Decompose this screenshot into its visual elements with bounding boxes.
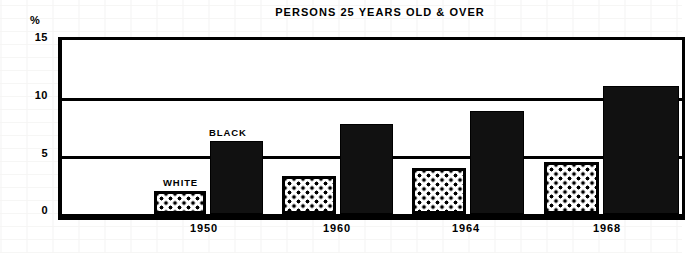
white-series-annotation: WHITE bbox=[163, 177, 198, 188]
y-axis-unit-label: % bbox=[30, 14, 40, 26]
black-bar-1964[interactable] bbox=[470, 111, 524, 214]
y-axis-tick-15: 15 bbox=[0, 31, 48, 43]
white-bar-1950[interactable] bbox=[154, 191, 206, 214]
white-bar-1964[interactable] bbox=[412, 168, 466, 214]
black-series-annotation: BLACK bbox=[209, 127, 247, 138]
black-bar-1950[interactable] bbox=[210, 141, 263, 214]
plot-area: WHITE BLACK bbox=[58, 37, 685, 220]
bar-group-1960 bbox=[282, 40, 394, 214]
chart-title: PERSONS 25 YEARS OLD & OVER bbox=[0, 6, 682, 18]
bar-group-1968 bbox=[544, 40, 679, 214]
bar-series-container bbox=[62, 40, 682, 214]
x-axis-label-1950: 1950 bbox=[190, 222, 218, 234]
x-axis-label-1964: 1964 bbox=[452, 222, 480, 234]
y-axis-tick-10: 10 bbox=[0, 89, 48, 101]
black-bar-1960[interactable] bbox=[340, 124, 393, 214]
x-axis-label-1960: 1960 bbox=[323, 222, 351, 234]
white-bar-1968[interactable] bbox=[544, 162, 599, 214]
y-axis-tick-0: 0 bbox=[0, 204, 48, 216]
white-bar-1960[interactable] bbox=[282, 176, 336, 214]
black-bar-1968[interactable] bbox=[603, 86, 679, 214]
bar-group-1964 bbox=[412, 40, 524, 214]
x-axis-label-1968: 1968 bbox=[593, 222, 621, 234]
y-axis-tick-5: 5 bbox=[0, 147, 48, 159]
